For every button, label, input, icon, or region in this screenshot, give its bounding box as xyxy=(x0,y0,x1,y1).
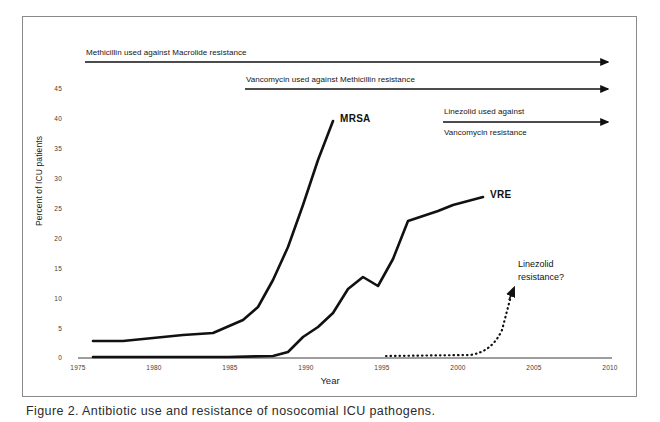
annotation-vancomycin-label: Vancomycin used against Methicillin resi… xyxy=(246,75,415,84)
figure-caption: Figure 2. Antibiotic use and resistance … xyxy=(26,404,656,422)
x-tick-1995: 1995 xyxy=(367,364,397,371)
x-tick-1990: 1990 xyxy=(291,364,321,371)
x-tick-2005: 2005 xyxy=(519,364,549,371)
series-label-vre: VRE xyxy=(490,189,511,200)
figure-container: 45 40 35 30 25 20 15 10 5 0 1975 1980 19… xyxy=(0,0,660,422)
y-tick-45: 45 xyxy=(40,85,62,92)
annotation-methicillin-label: Methicillin used against Macrolide resis… xyxy=(86,48,247,57)
annotation-linezolid-label-top: Linezolid used against xyxy=(444,107,524,116)
y-axis-title: Percent of ICU patients xyxy=(34,116,44,246)
x-tick-1975: 1975 xyxy=(63,364,93,371)
x-tick-2000: 2000 xyxy=(443,364,473,371)
y-tick-15: 15 xyxy=(40,265,62,272)
x-tick-2010: 2010 xyxy=(595,364,625,371)
x-tick-1980: 1980 xyxy=(139,364,169,371)
figure-frame xyxy=(22,16,637,397)
y-tick-5: 5 xyxy=(40,325,62,332)
series-label-mrsa: MRSA xyxy=(340,113,371,124)
linezolid-question-line1: Linezolid xyxy=(518,258,554,270)
x-tick-1985: 1985 xyxy=(215,364,245,371)
x-axis-title: Year xyxy=(0,375,660,386)
y-tick-0: 0 xyxy=(40,354,62,361)
annotation-linezolid-label-bottom: Vancomycin resistance xyxy=(444,128,527,137)
y-tick-10: 10 xyxy=(40,295,62,302)
linezolid-question-line2: resistance? xyxy=(518,271,564,283)
